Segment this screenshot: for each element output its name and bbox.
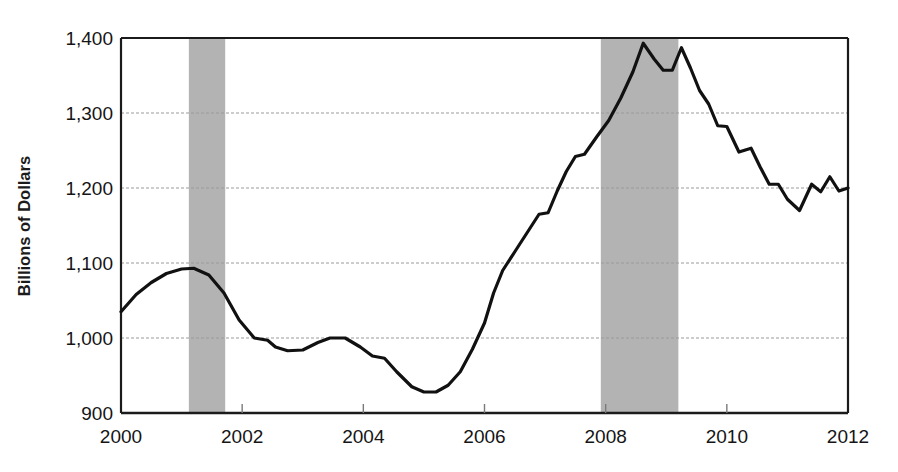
x-tick-label-2012: 2012 <box>827 426 869 447</box>
recession-band-1 <box>189 38 225 413</box>
x-tick-label-2004: 2004 <box>342 426 385 447</box>
x-tick-label-2000: 2000 <box>100 426 142 447</box>
y-tick-label-1400: 1,400 <box>65 28 113 49</box>
y-tick-label-1200: 1,200 <box>65 178 113 199</box>
y-tick-label-1300: 1,300 <box>65 103 113 124</box>
x-tick-label-2010: 2010 <box>706 426 748 447</box>
line-chart: 9001,0001,1001,2001,3001,400 20002002200… <box>0 0 898 472</box>
y-axis-title: Billions of Dollars <box>15 156 33 296</box>
y-tick-label-1100: 1,100 <box>65 253 113 274</box>
y-tick-label-900: 900 <box>81 403 113 424</box>
chart-container: 9001,0001,1001,2001,3001,400 20002002200… <box>0 0 898 472</box>
x-tick-label-2002: 2002 <box>221 426 263 447</box>
x-tick-label-2006: 2006 <box>463 426 505 447</box>
chart-background <box>0 0 898 472</box>
y-tick-label-1000: 1,000 <box>65 328 113 349</box>
x-tick-label-2008: 2008 <box>585 426 627 447</box>
recession-band-2 <box>601 38 679 413</box>
